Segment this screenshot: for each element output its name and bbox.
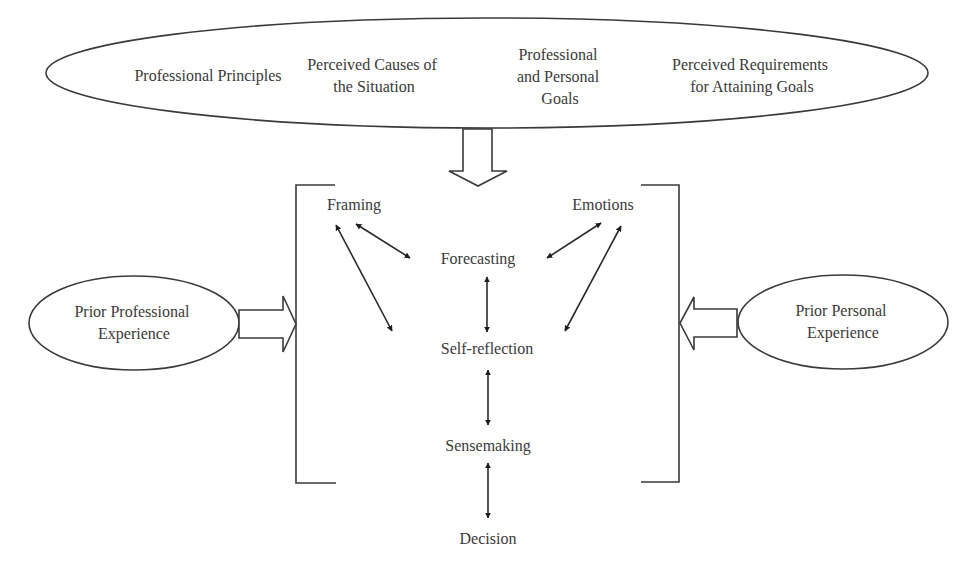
forecasting-label: Forecasting bbox=[441, 250, 516, 268]
framing-label: Framing bbox=[327, 196, 381, 214]
emotions-forecasting-arrow bbox=[547, 223, 601, 258]
prior-professional-experience: Prior Professional Experience bbox=[29, 276, 239, 370]
sensemaking-label: Sensemaking bbox=[445, 437, 530, 455]
emotions-label: Emotions bbox=[572, 196, 633, 213]
framing-forecasting-arrow bbox=[356, 224, 410, 258]
influences-ellipse: Professional Principles Perceived Causes… bbox=[46, 18, 928, 128]
right-bracket bbox=[641, 185, 679, 482]
decision-label: Decision bbox=[460, 530, 517, 547]
professional-principles-label: Professional Principles bbox=[134, 67, 281, 85]
self-reflection-label: Self-reflection bbox=[441, 340, 533, 357]
down-block-arrow bbox=[449, 129, 507, 186]
left-block-arrow bbox=[680, 297, 737, 350]
left-bracket bbox=[296, 185, 336, 483]
prior-personal-ellipse bbox=[738, 275, 948, 369]
decision-process-diagram: Professional Principles Perceived Causes… bbox=[0, 0, 980, 565]
prior-personal-experience: Prior Personal Experience bbox=[738, 275, 948, 369]
right-block-arrow bbox=[239, 296, 296, 352]
prior-professional-ellipse bbox=[29, 276, 239, 370]
